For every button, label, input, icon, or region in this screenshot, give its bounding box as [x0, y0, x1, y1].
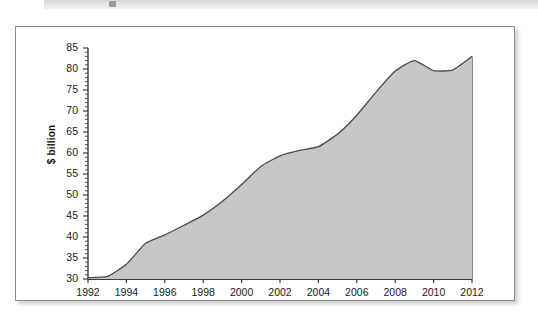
x-tick-label: 2008 [375, 286, 415, 298]
x-tick-label: 2010 [414, 286, 454, 298]
y-tick-label: 70 [54, 104, 78, 116]
y-tick-label: 50 [54, 188, 78, 200]
y-tick-label: 85 [54, 41, 78, 53]
x-tick-label: 2006 [337, 286, 377, 298]
x-tick-label: 1996 [145, 286, 185, 298]
area-chart: $ billion 303540455055606570758085 19921… [16, 27, 516, 302]
x-tick-label: 1992 [68, 286, 108, 298]
x-tick-label: 2004 [298, 286, 338, 298]
y-tick-label: 65 [54, 125, 78, 137]
top-decorative-strip [44, 0, 538, 9]
y-tick-label: 55 [54, 167, 78, 179]
y-tick-label: 30 [54, 272, 78, 284]
x-tick-label: 1994 [106, 286, 146, 298]
y-tick-label: 60 [54, 146, 78, 158]
y-tick-label: 80 [54, 62, 78, 74]
x-tick-label: 2012 [452, 286, 492, 298]
area-fill [88, 56, 472, 279]
x-tick-label: 1998 [183, 286, 223, 298]
y-tick-label: 45 [54, 209, 78, 221]
y-tick-label: 75 [54, 83, 78, 95]
plot-canvas [16, 27, 516, 302]
x-tick-label: 2002 [260, 286, 300, 298]
y-tick-label: 35 [54, 251, 78, 263]
figure-frame: $ billion 303540455055606570758085 19921… [15, 26, 515, 301]
y-tick-label: 40 [54, 230, 78, 242]
series-group [88, 56, 472, 279]
x-tick-label: 2000 [222, 286, 262, 298]
strip-marker-icon [109, 1, 116, 7]
